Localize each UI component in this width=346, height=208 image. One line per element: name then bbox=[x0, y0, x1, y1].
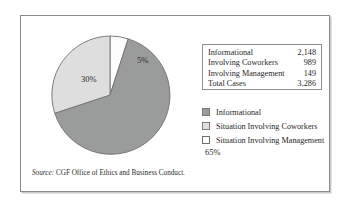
table-row: Involving Coworkers 989 bbox=[208, 58, 316, 68]
legend-item-management[interactable]: Situation Involving Management bbox=[202, 133, 346, 147]
table-row: Involving Management 149 bbox=[208, 69, 316, 79]
pie-label-management-percent: 5% bbox=[137, 55, 148, 65]
pie-label-coworkers-percent: 30% bbox=[81, 74, 97, 84]
table-cell-label: Involving Coworkers bbox=[208, 58, 295, 68]
pie-label-informational-percent: 65% bbox=[205, 147, 221, 157]
legend-swatch-icon bbox=[202, 136, 210, 144]
table-cell-label: Total Cases bbox=[208, 79, 295, 89]
source-note: Source: CGF Office of Ethics and Busines… bbox=[32, 169, 185, 177]
legend-swatch-icon bbox=[202, 108, 210, 116]
table-cell-label: Involving Management bbox=[208, 69, 295, 79]
legend-item-informational[interactable]: Informational bbox=[202, 105, 346, 119]
pie-chart: 5% 30% 65% bbox=[49, 34, 171, 156]
case-counts-table: Informational 2,148 Involving Coworkers … bbox=[202, 44, 322, 90]
legend-item-label: Informational bbox=[216, 108, 261, 117]
source-label: Source: bbox=[32, 169, 54, 177]
legend-item-label: Situation Involving Management bbox=[216, 136, 324, 145]
source-text: CGF Office of Ethics and Business Conduc… bbox=[56, 169, 185, 177]
table-row: Informational 2,148 bbox=[208, 48, 316, 58]
table-cell-value: 2,148 bbox=[295, 48, 316, 58]
legend-item-coworkers[interactable]: Situation Involving Coworkers bbox=[202, 119, 346, 133]
chart-figure-frame: 5% 30% 65% Informational 2,148 Involving… bbox=[20, 15, 330, 192]
pie-chart-svg bbox=[49, 34, 171, 156]
legend-swatch-icon bbox=[202, 122, 210, 130]
table-cell-label: Informational bbox=[208, 48, 295, 58]
legend-item-label: Situation Involving Coworkers bbox=[216, 122, 317, 131]
table-cell-value: 3,286 bbox=[295, 79, 316, 89]
chart-legend: Informational Situation Involving Cowork… bbox=[202, 105, 346, 147]
table-row: Total Cases 3,286 bbox=[208, 79, 316, 89]
table-cell-value: 989 bbox=[295, 58, 316, 68]
table-cell-value: 149 bbox=[295, 69, 316, 79]
case-counts-table-grid: Informational 2,148 Involving Coworkers … bbox=[208, 48, 316, 89]
